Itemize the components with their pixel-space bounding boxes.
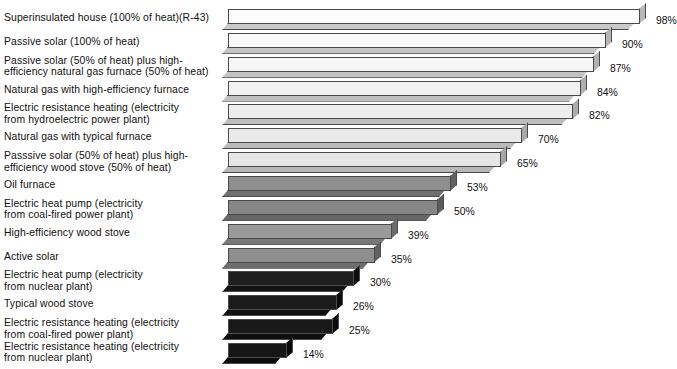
bar-bottom-face [222,47,600,54]
category-label: Typical wood stove [4,298,226,310]
category-label: Passive solar (100% of heat) [4,36,226,48]
bar [228,271,354,295]
bar [228,9,640,33]
bar-bottom-face [222,333,327,340]
bar-row: Electric heat pump (electricity from coa… [0,200,673,224]
bar-row: Passive solar (50% of heat) plus high- e… [0,57,673,81]
category-label: Electric resistance heating (electricity… [4,341,226,364]
bar-bottom-face [222,285,348,292]
bar [228,343,287,367]
category-label: Oil furnace [4,179,226,191]
bar-value-label: 84% [597,87,618,99]
bar-bottom-face [222,118,567,125]
bar-row: Passsive solar (50% of heat) plus high- … [0,152,673,176]
bar-row: Oil furnace53% [0,176,673,200]
bar-bottom-face [222,262,369,269]
bar-front-face [228,57,594,72]
bar-bottom-face [222,309,331,316]
bar-row: Passive solar (100% of heat)90% [0,33,673,57]
category-label: Passsive solar (50% of heat) plus high- … [4,150,226,173]
bar-row: Electric heat pump (electricity from nuc… [0,271,673,295]
bar-end-cap [639,3,646,24]
bar-value-label: 65% [517,158,538,170]
bar-front-face [228,295,337,310]
bar-front-face [228,224,392,239]
category-label: Passive solar (50% of heat) plus high- e… [4,55,226,78]
category-label: Electric heat pump (electricity from nuc… [4,269,226,292]
bar [228,176,451,200]
bar-front-face [228,33,606,48]
bar-front-face [228,128,522,143]
category-label: Natural gas with high-efficiency furnace [4,84,226,96]
bar-value-label: 14% [303,349,324,361]
bar [228,81,581,105]
bar-value-label: 82% [589,110,610,122]
bar-bottom-face [222,23,634,30]
category-label: Active solar [4,251,226,263]
bar-value-label: 53% [467,182,488,194]
bar-row: Electric resistance heating (electricity… [0,343,673,367]
category-label: Electric resistance heating (electricity… [4,317,226,340]
bar-front-face [228,152,501,167]
bar [228,200,438,224]
bar-row: Superinsulated house (100% of heat)(R-43… [0,9,673,33]
bar-value-label: 39% [408,230,429,242]
bar-front-face [228,176,451,191]
bar [228,57,594,81]
bar-front-face [228,81,581,96]
bar-value-label: 26% [353,301,374,313]
bar-row: Natural gas with high-efficiency furnace… [0,81,673,105]
bar-bottom-face [222,214,432,221]
bar-front-face [228,319,333,334]
bar-bottom-face [222,357,281,364]
bar-front-face [228,248,375,263]
category-label: Superinsulated house (100% of heat)(R-43… [4,12,226,24]
bar-front-face [228,9,640,24]
bar-value-label: 25% [349,325,370,337]
bar-value-label: 90% [622,39,643,51]
bar-row: Natural gas with typical furnace70% [0,128,673,152]
bar-value-label: 98% [656,15,677,27]
bar-value-label: 35% [391,254,412,266]
category-label: High-efficiency wood stove [4,227,226,239]
bar-value-label: 70% [538,134,559,146]
bar-row: Electric resistance heating (electricity… [0,319,673,343]
bar-row: High-efficiency wood stove39% [0,224,673,248]
bar-value-label: 30% [370,277,391,289]
bar-bottom-face [222,166,495,173]
bar [228,248,375,272]
bar [228,295,337,319]
bar-front-face [228,271,354,286]
bar-value-label: 50% [454,206,475,218]
category-label: Natural gas with typical furnace [4,131,226,143]
category-label: Electric heat pump (electricity from coa… [4,198,226,221]
bar-value-label: 87% [610,63,631,75]
bar-bottom-face [222,142,516,149]
bar [228,33,606,57]
bar-row: Active solar35% [0,248,673,272]
bar-bottom-face [222,95,575,102]
bar-front-face [228,343,287,358]
bar-front-face [228,104,573,119]
bar-bottom-face [222,190,445,197]
bar [228,104,573,128]
bar [228,319,333,343]
bar [228,152,501,176]
bar-bottom-face [222,71,588,78]
bar-bottom-face [222,238,386,245]
bar-row: Electric resistance heating (electricity… [0,104,673,128]
bar [228,224,392,248]
category-label: Electric resistance heating (electricity… [4,102,226,125]
bar-front-face [228,200,438,215]
bar [228,128,522,152]
